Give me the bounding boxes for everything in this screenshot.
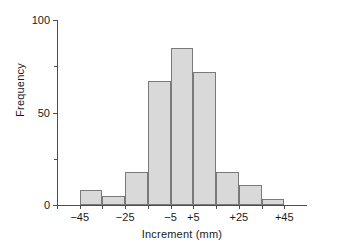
x-axis-tick xyxy=(171,205,172,209)
x-axis-tick xyxy=(148,205,149,209)
x-axis-tick-label: +25 xyxy=(229,211,248,223)
x-axis-tick xyxy=(216,205,217,209)
histogram-bar xyxy=(262,199,285,205)
x-axis-tick xyxy=(57,205,58,209)
histogram-bar xyxy=(193,72,216,205)
histogram-bar xyxy=(125,172,148,205)
x-axis-tick-label: −5 xyxy=(164,211,177,223)
plot-area: 050100 −45−25−5+5+25+45 xyxy=(57,20,307,205)
x-axis-tick xyxy=(284,205,285,209)
x-axis-line xyxy=(54,205,307,206)
histogram-bar xyxy=(216,172,239,205)
histogram-bar xyxy=(239,185,262,205)
y-axis-tick xyxy=(53,20,57,21)
x-axis-tick-label: +45 xyxy=(275,211,294,223)
x-axis-title: Increment (mm) xyxy=(57,228,307,240)
x-axis-tick xyxy=(239,205,240,209)
y-axis-tick-label: 100 xyxy=(32,14,50,26)
histogram-bar xyxy=(80,190,103,205)
y-axis-minor-tick xyxy=(54,159,57,160)
histogram-bar xyxy=(171,48,194,205)
y-axis-title: Frequency xyxy=(10,50,30,130)
x-axis-tick xyxy=(193,205,194,209)
x-axis-tick xyxy=(102,205,103,209)
y-axis-tick-label: 50 xyxy=(38,107,50,119)
histogram-bar xyxy=(148,81,171,205)
x-axis-tick-label: −45 xyxy=(70,211,89,223)
y-axis-tick xyxy=(53,113,57,114)
histogram-figure: Frequency 050100 −45−25−5+5+25+45 Increm… xyxy=(0,0,342,249)
y-axis-minor-tick xyxy=(54,66,57,67)
x-axis-tick xyxy=(80,205,81,209)
y-axis-line xyxy=(57,20,58,206)
x-axis-tick xyxy=(125,205,126,209)
y-axis-tick-label: 0 xyxy=(44,199,50,211)
histogram-bar xyxy=(102,196,125,205)
x-axis-tick-label: −25 xyxy=(116,211,135,223)
x-axis-tick-label: +5 xyxy=(187,211,200,223)
x-axis-tick xyxy=(262,205,263,209)
